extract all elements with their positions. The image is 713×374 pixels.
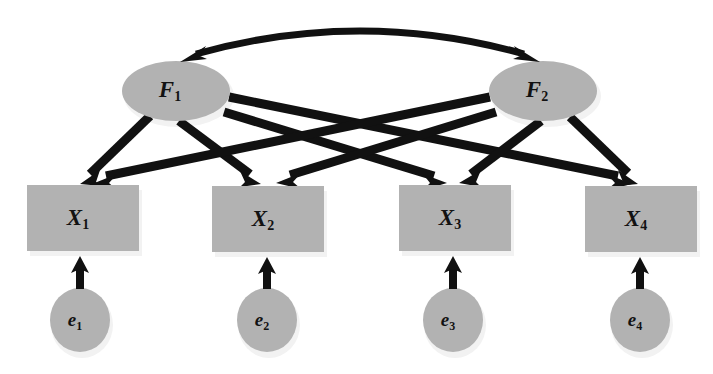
label-e4-sub: 4 bbox=[636, 319, 642, 333]
label-e3-sub: 3 bbox=[449, 319, 455, 333]
path-e1-X1 bbox=[71, 256, 89, 289]
covariance-path-F1-F2 bbox=[180, 31, 540, 62]
path-F1-X3 bbox=[224, 112, 447, 190]
label-F1-main: F bbox=[158, 77, 174, 102]
label-X2-main: X bbox=[251, 206, 268, 231]
error-paths bbox=[71, 256, 649, 289]
label-X4-sub: 4 bbox=[640, 218, 647, 233]
label-e1-sub: 1 bbox=[76, 319, 82, 333]
label-X4-main: X bbox=[624, 206, 641, 231]
label-e2-sub: 2 bbox=[263, 319, 269, 333]
path-e4-X4 bbox=[631, 257, 649, 289]
path-F2-X2 bbox=[276, 112, 496, 189]
arrowhead-F1-X2 bbox=[240, 171, 261, 187]
covariance-curve bbox=[196, 31, 524, 54]
label-X2-sub: 2 bbox=[267, 218, 274, 233]
path-e2-X2 bbox=[258, 257, 276, 289]
label-F1-sub: 1 bbox=[174, 89, 181, 104]
diagram-canvas: F1 F2 X1 X2 X3 X4 e1 e2 bbox=[0, 0, 713, 374]
label-F2-main: F bbox=[525, 77, 541, 102]
sem-path-diagram: F1 F2 X1 X2 X3 X4 e1 e2 bbox=[0, 0, 713, 374]
label-F2-sub: 2 bbox=[541, 89, 548, 104]
label-X3-main: X bbox=[438, 205, 455, 230]
label-X3-sub: 3 bbox=[454, 217, 461, 232]
label-X1-main: X bbox=[66, 205, 83, 230]
label-X1-sub: 1 bbox=[82, 217, 89, 232]
path-e3-X3 bbox=[444, 256, 462, 289]
